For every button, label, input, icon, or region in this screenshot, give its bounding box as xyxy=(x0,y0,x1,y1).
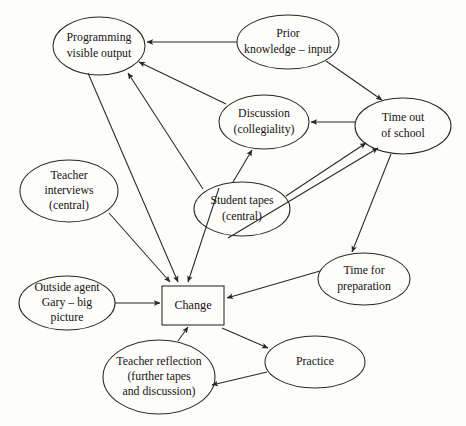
node-prior-knowledge[interactable]: Priorknowledge – input xyxy=(237,15,339,69)
node-label-line: Prior xyxy=(276,26,300,40)
edge-change-to-practice xyxy=(222,328,268,348)
node-label-line: Outside agent xyxy=(34,280,100,294)
node-time-out-of-school[interactable]: Time outof school xyxy=(355,98,451,154)
node-label-teacher-reflection: Teacher reflection(further tapesand disc… xyxy=(116,354,201,398)
edge-prior-to-time-out xyxy=(326,61,382,100)
node-label-line: interviews xyxy=(44,183,94,197)
edge-practice-to-teacher-reflection xyxy=(212,372,267,385)
node-outside-agent[interactable]: Outside agentGary – bigpicture xyxy=(19,276,115,330)
node-label-line: (central) xyxy=(222,208,262,222)
node-teacher-reflection[interactable]: Teacher reflection(further tapesand disc… xyxy=(103,340,215,414)
node-change[interactable]: Change xyxy=(162,286,224,325)
diagram-canvas: Programmingvisible outputPriorknowledge … xyxy=(0,0,466,426)
node-label-line: preparation xyxy=(337,278,391,292)
node-label-time-for-preparation: Time forpreparation xyxy=(337,263,391,292)
node-label-discussion: Discussion(collegiality) xyxy=(234,106,295,135)
edge-discussion-to-programming xyxy=(139,62,226,104)
node-label-line: (central) xyxy=(49,198,89,212)
node-label-student-tapes: Student tapes(central) xyxy=(210,193,274,222)
node-programming[interactable]: Programmingvisible output xyxy=(53,17,145,75)
node-label-line: visible output xyxy=(67,45,132,59)
node-label-line: (further tapes xyxy=(127,369,191,383)
edge-student-tapes-to-discussion xyxy=(233,150,252,182)
node-label-line: picture xyxy=(51,310,84,324)
edge-student-tapes-to-time-out xyxy=(286,143,366,196)
edge-teacher-reflection-to-change xyxy=(178,327,188,341)
node-label-practice: Practice xyxy=(296,354,334,368)
node-label-line: of school xyxy=(381,125,425,139)
edge-teacher-interviews-to-change xyxy=(109,213,170,282)
edge-programming-to-change xyxy=(88,73,178,282)
node-label-change: Change xyxy=(174,297,211,311)
node-label-line: Practice xyxy=(296,354,334,368)
diagram-svg: Programmingvisible outputPriorknowledge … xyxy=(0,0,466,426)
node-label-line: and discussion) xyxy=(122,384,195,398)
node-discussion[interactable]: Discussion(collegiality) xyxy=(219,95,309,149)
node-time-for-preparation[interactable]: Time forpreparation xyxy=(318,253,410,305)
node-label-outside-agent: Outside agentGary – bigpicture xyxy=(34,280,100,324)
node-label-line: Student tapes xyxy=(210,193,274,207)
node-label-line: Teacher reflection xyxy=(116,354,201,368)
node-label-line: Time for xyxy=(343,263,384,277)
node-label-line: Programming xyxy=(67,30,132,44)
node-practice[interactable]: Practice xyxy=(265,336,365,388)
edge-time-for-preparation-to-change xyxy=(227,271,320,298)
node-label-programming: Programmingvisible output xyxy=(67,30,132,59)
node-label-line: Teacher xyxy=(50,168,87,182)
node-label-line: (collegiality) xyxy=(234,121,295,135)
node-teacher-interviews[interactable]: Teacherinterviews(central) xyxy=(20,160,118,222)
node-label-line: Time out xyxy=(382,110,425,124)
node-label-line: Discussion xyxy=(238,106,290,120)
node-label-teacher-interviews: Teacherinterviews(central) xyxy=(44,168,94,212)
edge-student-tapes-to-programming xyxy=(128,73,203,189)
node-label-time-out-of-school: Time outof school xyxy=(381,110,425,139)
node-label-line: Change xyxy=(174,297,211,311)
edge-time-out-to-time-for-preparation xyxy=(352,154,391,252)
node-label-prior-knowledge: Priorknowledge – input xyxy=(244,26,333,55)
nodes-layer: Programmingvisible outputPriorknowledge … xyxy=(19,15,451,414)
node-label-line: Gary – big xyxy=(42,295,93,309)
node-label-line: knowledge – input xyxy=(244,41,333,55)
